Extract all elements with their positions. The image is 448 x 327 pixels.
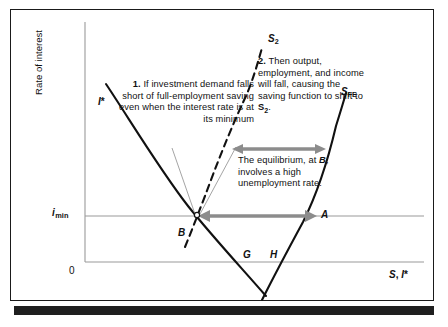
i-min-axis-label: imin <box>52 207 68 218</box>
plot-canvas <box>0 0 448 327</box>
annotation-3-leader-line <box>200 147 236 214</box>
point-label-g: G <box>243 249 251 260</box>
origin-label: 0 <box>69 265 75 276</box>
equilibrium-gap-arrow <box>198 210 317 222</box>
x-axis-label-s: S <box>389 269 396 280</box>
annotation-1: 1. If investment demand falls short of f… <box>118 79 254 125</box>
saving-shift-gap-arrow <box>232 144 326 154</box>
point-label-h: H <box>270 249 277 260</box>
curve-label-sfe: SFE <box>341 86 357 97</box>
annotation-2-suffix-symbol: S2 <box>258 102 268 112</box>
point-label-b: B <box>178 227 185 238</box>
curve-label-s2-subscript: 2 <box>275 37 279 46</box>
y-axis-title: Rate of interest <box>33 3 44 123</box>
curve-label-investment-star: * <box>101 96 105 107</box>
curve-label-s2-symbol: S <box>268 33 275 44</box>
curve-label-s2: S2 <box>268 33 279 44</box>
annotation-3-point-token: B <box>319 155 326 165</box>
x-axis-label-star: * <box>404 269 408 280</box>
annotation-3: The equilibrium, at B, involves a high u… <box>238 155 342 190</box>
annotation-2-suffix-tail: . <box>268 102 271 112</box>
annotation-3-text-before: The equilibrium, at <box>238 155 319 165</box>
point-label-a: A <box>321 209 328 220</box>
figure-container: 1. If investment demand falls short of f… <box>0 0 448 327</box>
point-b-marker <box>194 212 199 217</box>
curve-label-sfe-symbol: S <box>341 86 348 97</box>
x-axis-label: S, I* <box>389 269 408 280</box>
annotation-1-number: 1. <box>133 79 141 89</box>
i-min-subscript: min <box>55 211 68 220</box>
full-employment-saving-curve <box>262 93 346 300</box>
annotation-2-number: 2. <box>258 56 266 66</box>
curve-label-investment: I* <box>98 96 105 107</box>
annotation-1-leader-line <box>172 148 195 214</box>
curve-label-sfe-subscript: FE <box>348 90 357 99</box>
